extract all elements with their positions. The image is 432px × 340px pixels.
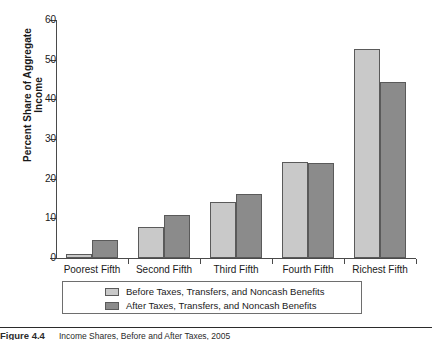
legend-item-after: After Taxes, Transfers, and Noncash Bene… bbox=[105, 299, 361, 312]
figure-caption: Figure 4.4Income Shares, Before and Afte… bbox=[0, 331, 432, 340]
bar-after bbox=[92, 240, 118, 258]
y-tick-label: 40 bbox=[12, 94, 56, 104]
y-tick-label: 50 bbox=[12, 55, 56, 65]
bar-before bbox=[138, 227, 164, 258]
bar-after bbox=[380, 82, 406, 258]
bar-after bbox=[308, 163, 334, 258]
legend-swatch-before-icon bbox=[105, 288, 119, 296]
legend-label-after: After Taxes, Transfers, and Noncash Bene… bbox=[126, 301, 316, 311]
figure-chart: Percent Share of Aggregate Income 010203… bbox=[0, 0, 432, 340]
y-tick-label-wrap: 10 bbox=[0, 213, 56, 223]
bar-before bbox=[354, 49, 380, 258]
figure-caption-number: Figure 4.4 bbox=[0, 331, 45, 340]
x-axis-line bbox=[56, 258, 416, 259]
y-tick-label-wrap: 0 bbox=[0, 253, 56, 263]
legend-swatch-after-icon bbox=[105, 302, 119, 310]
bar-group bbox=[282, 20, 334, 258]
y-tick-label: 20 bbox=[12, 174, 56, 184]
y-tick-label: 10 bbox=[12, 213, 56, 223]
bar-group bbox=[210, 20, 262, 258]
bar-group bbox=[138, 20, 190, 258]
legend-label-before: Before Taxes, Transfers, and Noncash Ben… bbox=[126, 287, 324, 297]
y-tick-label-wrap: 40 bbox=[0, 94, 56, 104]
legend-item-before: Before Taxes, Transfers, and Noncash Ben… bbox=[105, 285, 361, 298]
y-tick-label-wrap: 60 bbox=[0, 15, 56, 25]
bar-before bbox=[210, 202, 236, 258]
bar-after bbox=[236, 194, 262, 258]
y-tick-label: 0 bbox=[12, 253, 56, 263]
y-tick-label-wrap: 20 bbox=[0, 174, 56, 184]
figure-caption-title: Income Shares, Before and After Taxes, 2… bbox=[59, 331, 230, 340]
bar-group bbox=[354, 20, 406, 258]
bar-before bbox=[282, 162, 308, 258]
x-category-label: Richest Fifth bbox=[335, 264, 425, 275]
bar-before bbox=[66, 254, 92, 258]
y-tick-label-wrap: 50 bbox=[0, 55, 56, 65]
y-tick-label-wrap: 30 bbox=[0, 134, 56, 144]
y-axis-line bbox=[56, 20, 57, 259]
y-tick-label: 30 bbox=[12, 134, 56, 144]
chart-legend: Before Taxes, Transfers, and Noncash Ben… bbox=[62, 281, 362, 314]
bar-group bbox=[66, 20, 118, 258]
caption-divider bbox=[0, 327, 432, 328]
y-tick-label: 60 bbox=[12, 15, 56, 25]
bar-after bbox=[164, 215, 190, 258]
